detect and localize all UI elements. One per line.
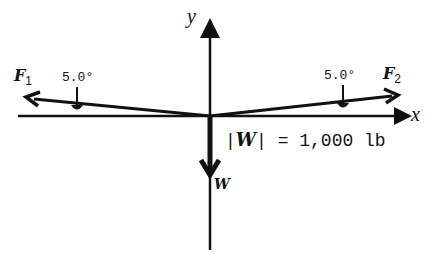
weight-magnitude: |W| = 1,000 lb [225,131,386,150]
free-body-diagram [0,0,433,257]
weight-arrow [201,116,219,175]
angle-marker-f2 [337,85,349,108]
force-f1-label: F1 [14,68,32,87]
angle-marker-f1 [71,87,83,110]
x-axis-label: x [411,104,420,124]
angle-label-f1: 5.0° [62,71,93,84]
weight-label: W [214,177,230,191]
angle-label-f2: 5.0° [324,69,355,82]
y-axis-label: y [187,6,196,26]
force-f1-arrow [26,92,210,116]
force-f2-label: F2 [383,66,401,85]
force-f2-arrow [210,89,398,116]
